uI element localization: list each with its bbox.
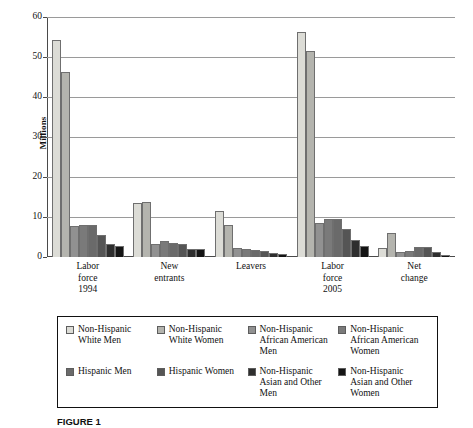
bar[interactable] [133,203,142,257]
chart-plot-area: Millions 0102030405060 Laborforce1994New… [0,0,473,310]
legend-label-line: Non-Hispanic [260,366,322,377]
bar[interactable] [306,51,315,257]
bar[interactable] [251,250,260,257]
bar[interactable] [278,254,287,257]
legend-label-line: Non-Hispanic [78,324,131,335]
legend-item[interactable]: Hispanic Men [66,366,157,399]
bar[interactable] [396,252,405,257]
bar[interactable] [196,249,205,257]
bar[interactable] [333,219,342,257]
legend-item[interactable]: Non-HispanicAsian and OtherWomen [338,366,429,399]
bar[interactable] [215,211,224,257]
legend-item[interactable]: Hispanic Women [157,366,248,399]
legend-item[interactable]: Non-HispanicWhite Men [66,324,157,357]
legend-item[interactable]: Non-HispanicAsian and OtherMen [248,366,339,399]
bar[interactable] [79,225,88,257]
legend-item[interactable]: Non-HispanicAfrican AmericanMen [248,324,339,357]
legend-label-line: Men [260,388,322,399]
chart-legend: Non-HispanicWhite MenNon-HispanicWhite W… [57,316,438,408]
x-axis-label: Netchange [373,261,455,296]
bar-group [129,17,211,257]
y-axis-tick-label: 60 [33,12,43,22]
bar[interactable] [414,247,423,257]
bar[interactable] [224,225,233,257]
legend-label: Non-HispanicAfrican AmericanWomen [350,324,418,357]
legend-label-line: White Men [78,335,131,346]
legend-swatch-icon [66,368,74,376]
legend-swatch-icon [338,368,346,376]
y-axis-tick-mark [43,257,47,258]
x-axis-label-line: force [292,273,374,285]
x-axis-label-line: force [47,273,129,285]
x-axis-label: Laborforce1994 [47,261,129,296]
x-axis-label-line: Leavers [210,261,292,273]
bar-group [47,17,129,257]
bar[interactable] [432,252,441,257]
legend-label-line: African American [350,335,418,346]
bar[interactable] [106,244,115,257]
legend-swatch-icon [157,368,165,376]
bar-group [210,17,292,257]
figure-caption: FIGURE 1 [57,416,457,427]
bar[interactable] [169,243,178,257]
x-axis-label: Newentrants [129,261,211,296]
legend-label-line: Hispanic Women [169,366,234,377]
y-axis-tick-label: 20 [33,172,43,182]
bar[interactable] [315,223,324,257]
bar[interactable] [351,240,360,257]
bar[interactable] [423,247,432,257]
x-axis-label-line: Net [373,261,455,273]
bar[interactable] [260,251,269,257]
legend-label-line: Men [260,346,328,357]
bar[interactable] [242,249,251,257]
bar[interactable] [324,219,333,257]
x-axis-label: Laborforce2005 [292,261,374,296]
bar[interactable] [342,229,351,257]
bar[interactable] [97,235,106,257]
x-axis-label-line: 1994 [47,284,129,296]
bar[interactable] [88,225,97,257]
legend-label-line: Women [350,388,412,399]
x-axis-label-line: change [373,273,455,285]
y-axis-tick-label: 10 [33,212,43,222]
bar[interactable] [387,233,396,257]
bar[interactable] [187,249,196,257]
bar[interactable] [405,251,414,257]
legend-items: Non-HispanicWhite MenNon-HispanicWhite W… [66,324,429,408]
legend-label-line: Non-Hispanic [350,324,418,335]
bar[interactable] [160,241,169,257]
legend-label-line: Hispanic Men [78,366,132,377]
legend-label-line: African American [260,335,328,346]
bar[interactable] [297,32,306,257]
legend-swatch-icon [248,326,256,334]
legend-label: Hispanic Men [78,366,132,377]
legend-label-line: Asian and Other [260,377,322,388]
legend-item[interactable]: Non-HispanicAfrican AmericanWomen [338,324,429,357]
legend-item[interactable]: Non-HispanicWhite Women [157,324,248,357]
x-axis-label-line: 2005 [292,284,374,296]
bar[interactable] [178,244,187,257]
y-axis-tick-label: 30 [33,132,43,142]
bar-group [292,17,374,257]
figure-container: Millions 0102030405060 Laborforce1994New… [0,0,473,428]
x-axis-label-line: entrants [129,273,211,285]
legend-label: Non-HispanicWhite Men [78,324,131,346]
bar[interactable] [360,246,369,257]
bar[interactable] [115,246,124,257]
legend-label-line: Non-Hispanic [169,324,224,335]
bar[interactable] [441,255,450,257]
bar[interactable] [70,226,79,257]
chart-axes: 0102030405060 [47,17,455,257]
bar[interactable] [142,202,151,257]
bar[interactable] [378,248,387,257]
legend-label: Non-HispanicAfrican AmericanMen [260,324,328,357]
bar[interactable] [151,244,160,257]
y-axis-tick-label: 40 [33,92,43,102]
bar[interactable] [269,253,278,257]
bar[interactable] [52,40,61,257]
bar[interactable] [61,72,70,257]
bar-group [373,17,455,257]
bar[interactable] [233,248,242,257]
legend-label-line: Non-Hispanic [350,366,412,377]
x-axis-label-line: Labor [292,261,374,273]
